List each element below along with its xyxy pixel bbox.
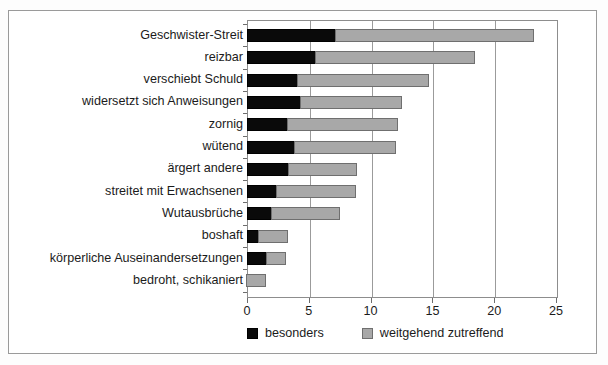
- bar-segment-weitgehend: [271, 207, 340, 220]
- y-axis-tick-label: streitet mit Erwachsenen: [0, 185, 243, 198]
- y-axis-tick: [243, 292, 247, 293]
- y-axis-category-labels: Geschwister-Streitreizbarverschiebt Schu…: [0, 20, 243, 298]
- bar-segment-besonders: [247, 185, 277, 198]
- y-axis-tick: [243, 269, 247, 270]
- y-axis-tick-label: ärgert andere: [0, 162, 243, 175]
- y-axis-tick: [243, 136, 247, 137]
- bar-segment-besonders: [247, 118, 288, 131]
- y-axis-tick-label: boshaft: [0, 229, 243, 242]
- x-axis-tick-label: 5: [305, 304, 312, 318]
- bar-segment-besonders: [247, 163, 289, 176]
- y-axis-tick: [243, 24, 247, 25]
- y-axis-tick: [243, 158, 247, 159]
- bar-row: [247, 118, 398, 131]
- bar-row: [247, 51, 475, 64]
- bar-row: [247, 185, 356, 198]
- y-axis-tick: [243, 91, 247, 92]
- legend-label: besonders: [265, 326, 324, 340]
- y-axis-tick: [243, 225, 247, 226]
- bar-row: [247, 230, 288, 243]
- x-axis-tick: [556, 298, 557, 303]
- bar-segment-weitgehend: [335, 29, 534, 42]
- bar-row: [247, 29, 534, 42]
- y-axis-tick: [243, 113, 247, 114]
- y-axis-tick: [243, 247, 247, 248]
- legend-label: weitgehend zutreffend: [380, 326, 504, 340]
- legend-swatch-light-icon: [362, 328, 373, 339]
- bar-segment-weitgehend: [288, 163, 357, 176]
- y-axis-tick-label: widersetzt sich Anweisungen: [0, 95, 243, 108]
- bar-segment-weitgehend: [294, 141, 395, 154]
- y-axis-tick-label: bedroht, schikaniert: [0, 274, 243, 287]
- bar-segment-weitgehend: [297, 74, 429, 87]
- bar-segment-weitgehend: [315, 51, 474, 64]
- y-axis-tick-label: reizbar: [0, 51, 243, 64]
- bar-segment-weitgehend: [287, 118, 398, 131]
- y-axis-tick: [243, 69, 247, 70]
- bar-row: [247, 96, 402, 109]
- x-axis-tick-label: 0: [243, 304, 250, 318]
- bar-row: [247, 252, 286, 265]
- bar-segment-besonders: [247, 207, 272, 220]
- bar-row: [247, 207, 340, 220]
- bar-segment-weitgehend: [258, 230, 288, 243]
- y-axis-tick-label: körperliche Auseinandersetzungen: [0, 252, 243, 265]
- x-axis-tick: [432, 298, 433, 303]
- legend-item: besonders: [247, 326, 324, 340]
- bar-segment-besonders: [247, 252, 267, 265]
- legend-swatch-dark-icon: [247, 328, 258, 339]
- legend-item: weitgehend zutreffend: [362, 326, 504, 340]
- chart-figure: Geschwister-Streitreizbarverschiebt Schu…: [0, 0, 608, 365]
- y-axis-tick: [243, 202, 247, 203]
- bar-segment-besonders: [247, 141, 295, 154]
- y-axis-tick: [243, 180, 247, 181]
- y-axis-tick-label: verschiebt Schuld: [0, 73, 243, 86]
- bar-row: [247, 141, 396, 154]
- x-axis-tick-label: 25: [549, 304, 563, 318]
- x-axis-tick-label: 10: [364, 304, 378, 318]
- bar-segment-besonders: [247, 96, 301, 109]
- y-axis-tick-label: wütend: [0, 140, 243, 153]
- chart-legend: besondersweitgehend zutreffend: [247, 325, 504, 341]
- bar-segment-besonders: [247, 51, 316, 64]
- y-axis-tick-label: zornig: [0, 118, 243, 131]
- bar-row: [247, 163, 357, 176]
- bars-layer: [247, 20, 558, 298]
- y-axis-tick-label: Wutausbrüche: [0, 207, 243, 220]
- x-axis-tick-label: 15: [425, 304, 439, 318]
- x-axis-tick-label: 20: [487, 304, 501, 318]
- y-axis-tick-label: Geschwister-Streit: [0, 29, 243, 42]
- bar-segment-weitgehend: [276, 185, 356, 198]
- x-axis-tick: [371, 298, 372, 303]
- bar-segment-weitgehend: [246, 274, 266, 287]
- x-axis: 0510152025: [247, 298, 558, 328]
- bar-row: [247, 74, 429, 87]
- bar-segment-besonders: [247, 29, 336, 42]
- x-axis-tick: [309, 298, 310, 303]
- x-axis-tick: [247, 298, 248, 303]
- bar-row: [247, 274, 266, 287]
- bar-segment-weitgehend: [300, 96, 401, 109]
- bar-segment-besonders: [247, 74, 298, 87]
- bar-segment-weitgehend: [266, 252, 286, 265]
- x-axis-tick: [494, 298, 495, 303]
- y-axis-tick: [243, 46, 247, 47]
